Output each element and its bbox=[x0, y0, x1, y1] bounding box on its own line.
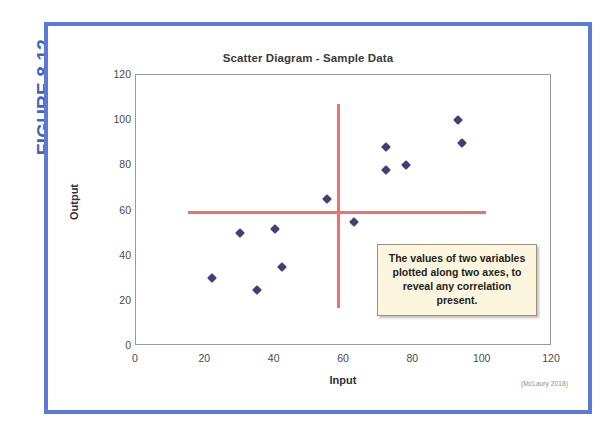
y-tick-label: 0 bbox=[101, 339, 131, 351]
x-tick-label: 40 bbox=[254, 352, 294, 364]
data-point bbox=[381, 165, 391, 175]
x-axis-ticks: 020406080100120 bbox=[135, 352, 551, 368]
data-point bbox=[235, 228, 245, 238]
attribution-text: (McLaury 2018) bbox=[428, 380, 568, 387]
data-point bbox=[207, 273, 217, 283]
x-tick-label: 100 bbox=[462, 352, 502, 364]
y-tick-label: 60 bbox=[101, 204, 131, 216]
x-tick-label: 80 bbox=[392, 352, 432, 364]
y-tick-label: 100 bbox=[101, 113, 131, 125]
y-tick-label: 120 bbox=[101, 68, 131, 80]
y-tick-label: 40 bbox=[101, 249, 131, 261]
y-axis-label: Output bbox=[68, 172, 80, 232]
data-point bbox=[457, 138, 467, 148]
vertical-reference-line bbox=[337, 104, 340, 307]
data-point bbox=[322, 194, 332, 204]
y-axis-ticks: 020406080100120 bbox=[97, 74, 131, 345]
y-tick-label: 80 bbox=[101, 158, 131, 170]
data-point bbox=[381, 142, 391, 152]
x-tick-label: 0 bbox=[115, 352, 155, 364]
x-tick-label: 120 bbox=[531, 352, 571, 364]
y-tick-label: 20 bbox=[101, 294, 131, 306]
data-point bbox=[453, 115, 463, 125]
scatter-chart: Scatter Diagram - Sample Data Output 020… bbox=[48, 26, 596, 418]
data-point bbox=[270, 224, 280, 234]
data-point bbox=[349, 217, 359, 227]
chart-title: Scatter Diagram - Sample Data bbox=[48, 52, 568, 64]
callout-annotation: The values of two variables plotted alon… bbox=[377, 244, 537, 316]
figure-panel: Scatter Diagram - Sample Data Output 020… bbox=[44, 22, 592, 414]
data-point bbox=[277, 262, 287, 272]
x-tick-label: 60 bbox=[323, 352, 363, 364]
x-tick-label: 20 bbox=[184, 352, 224, 364]
horizontal-reference-line bbox=[188, 211, 486, 214]
data-point bbox=[252, 285, 262, 295]
data-point bbox=[401, 160, 411, 170]
